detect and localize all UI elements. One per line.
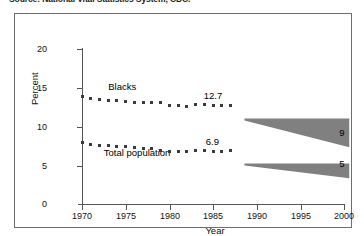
x-tick-label-1985: 1985 (203, 211, 223, 221)
data-marker (203, 149, 206, 152)
data-marker (177, 150, 180, 153)
data-marker (107, 144, 110, 147)
x-tick-label-1980: 1980 (160, 211, 180, 221)
projection-end-label-blacks: 9 (339, 127, 344, 138)
data-marker (124, 145, 127, 148)
data-marker (229, 104, 232, 107)
data-marker (124, 100, 127, 103)
x-tick-1975 (126, 205, 127, 210)
x-tick-2000 (344, 205, 345, 210)
data-marker (203, 103, 206, 106)
y-tick-label-5: 5 (42, 161, 47, 171)
data-marker (177, 104, 180, 107)
data-marker (194, 103, 197, 106)
data-marker (98, 144, 101, 147)
data-marker (142, 101, 145, 104)
data-marker (150, 101, 153, 104)
series-label-blacks: Blacks (108, 81, 136, 92)
data-marker (89, 97, 92, 100)
data-marker (81, 95, 84, 98)
data-marker (212, 150, 215, 153)
plot-area: Blacks 12.7 9 Total population 6.9 5 (82, 49, 344, 204)
x-tick-label-1970: 1970 (72, 211, 92, 221)
data-marker (107, 99, 110, 102)
y-tick-label-20: 20 (37, 44, 47, 54)
figure-frame: 20 15 10 5 0 1970 1975 1980 1985 1990 19… (14, 13, 352, 228)
data-marker (194, 149, 197, 152)
y-axis-title: Percent (29, 72, 40, 105)
x-tick-1990 (257, 205, 258, 210)
data-marker (168, 104, 171, 107)
x-axis-title: Year (15, 225, 364, 236)
data-marker (115, 99, 118, 102)
x-tick-1985 (213, 205, 214, 210)
source-note: Source: National Vital Statistics System… (9, 0, 190, 4)
x-tick-label-1990: 1990 (247, 211, 267, 221)
x-tick-label-1995: 1995 (291, 211, 311, 221)
data-marker (159, 149, 162, 152)
x-tick-1980 (170, 205, 171, 210)
series-value-blacks: 12.7 (204, 90, 223, 101)
data-marker (89, 143, 92, 146)
y-tick-label-10: 10 (37, 122, 47, 132)
data-marker (185, 150, 188, 153)
series-value-total-population: 6.9 (206, 136, 219, 147)
data-marker (98, 98, 101, 101)
data-marker (185, 105, 188, 108)
x-axis-title-text: Year (205, 225, 224, 236)
y-tick-label-0: 0 (42, 199, 47, 209)
data-marker (142, 147, 145, 150)
data-marker (220, 150, 223, 153)
x-tick-1970 (82, 205, 83, 210)
data-marker (150, 147, 153, 150)
projection-end-label-total-population: 5 (339, 158, 344, 169)
data-marker (159, 101, 162, 104)
data-marker (212, 104, 215, 107)
data-marker (220, 104, 223, 107)
data-marker (133, 101, 136, 104)
data-marker (133, 146, 136, 149)
x-tick-1995 (301, 205, 302, 210)
source-note-text: Source: National Vital Statistics System… (9, 0, 190, 4)
data-marker (115, 145, 118, 148)
x-tick-label-1975: 1975 (116, 211, 136, 221)
data-marker (168, 150, 171, 153)
data-marker (81, 141, 84, 144)
x-tick-label-2000: 2000 (334, 211, 354, 221)
data-marker (229, 149, 232, 152)
